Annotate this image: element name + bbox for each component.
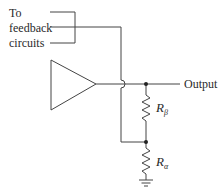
- feedback-wire: [50, 27, 121, 80]
- resistor-beta-icon: [142, 84, 150, 142]
- resistor-alpha-icon: [142, 142, 150, 180]
- output-label: Output: [184, 77, 217, 91]
- output-node-dot: [144, 82, 148, 86]
- resistor-alpha-subscript: α: [164, 162, 168, 171]
- resistor-beta-symbol: R: [156, 100, 164, 115]
- resistor-alpha-symbol: R: [156, 154, 164, 169]
- amplifier-triangle-icon: [51, 60, 96, 110]
- divider-node-dot: [144, 140, 148, 144]
- resistor-alpha-label: Rα: [156, 155, 168, 174]
- resistor-beta-subscript: β: [164, 108, 168, 117]
- feedback-wire-lower: [121, 88, 146, 142]
- circuit-schematic: [0, 0, 220, 192]
- ground-icon: [139, 180, 153, 186]
- resistor-beta-label: Rβ: [156, 101, 168, 120]
